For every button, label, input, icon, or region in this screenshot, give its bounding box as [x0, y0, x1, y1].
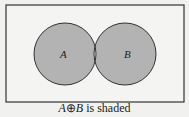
caption-operator: ⊕ — [66, 101, 76, 115]
label-a: A — [59, 48, 67, 60]
caption-set-a: A — [58, 101, 65, 115]
caption-text: is shaded — [83, 101, 130, 115]
venn-diagram: A B — [0, 0, 189, 117]
label-b: B — [124, 48, 131, 60]
caption: A⊕B is shaded — [0, 101, 189, 116]
